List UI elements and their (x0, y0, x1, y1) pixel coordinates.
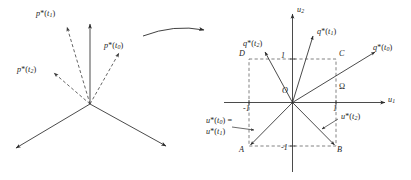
corner-label-A: A (239, 146, 244, 155)
corner-label-C: C (339, 50, 345, 59)
label-q-star-t2: q*(t2) (243, 40, 262, 49)
transition-arrow-icon (143, 28, 204, 36)
tick-label-y-negative-one: -1 (281, 143, 288, 152)
label-q-star-t1: q*(t1) (317, 28, 336, 37)
label-p-star-t2: p*(t2) (17, 66, 36, 75)
axis-label-u2: u2 (297, 6, 304, 15)
origin-label-O: O (282, 87, 288, 96)
axis-label-u1: u1 (388, 96, 395, 105)
figure-artwork (0, 0, 411, 180)
figure-root: p*(t1) p*(t0) p*(t2) u2 u1 q*(t1) q*(t2)… (0, 0, 411, 180)
label-u-star-t0-equals-t1: u*(t0) = u*(t1) (206, 116, 232, 137)
label-u-star-t1-line: u*(t1) (206, 127, 232, 138)
label-p-star-t1: p*(t1) (36, 10, 55, 19)
corner-label-D: D (239, 50, 245, 59)
label-p-star-t0: p*(t0) (104, 42, 123, 51)
right-panel-axes (224, 14, 385, 172)
tick-label-x-positive-one: 1 (333, 104, 337, 113)
label-q-star-t0: q*(t0) (373, 44, 392, 53)
label-u-star-t0-line: u*(t0) = (206, 116, 232, 127)
tick-label-x-negative-one: -1 (243, 104, 250, 113)
region-label-omega: Ω (339, 83, 345, 92)
left-panel-solid-axes (16, 24, 166, 148)
corner-label-B: B (337, 146, 342, 155)
tick-label-y-positive-one: 1 (281, 51, 285, 60)
annotation-leaders (232, 119, 338, 130)
label-u-star-t2: u*(t2) (341, 113, 360, 122)
left-panel-dashed-vectors (54, 27, 119, 104)
